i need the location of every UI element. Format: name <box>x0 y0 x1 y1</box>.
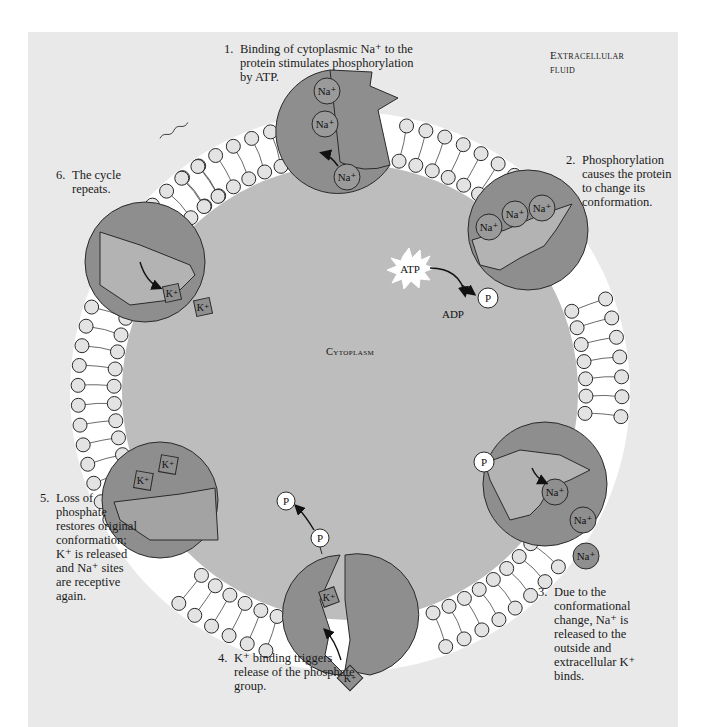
step-2-caption: 2. Phosphorylation causes the protein to… <box>566 153 676 209</box>
sodium-ion: Na⁺ <box>338 171 357 183</box>
potassium-ion: K⁺ <box>137 475 150 486</box>
step-6-caption: 6. The cycle repeats. <box>56 168 136 196</box>
pump-protein-step1: Na⁺ Na⁺ Na⁺ <box>276 70 398 194</box>
sodium-ion: Na⁺ <box>316 118 335 130</box>
sodium-ion: Na⁺ <box>577 550 596 562</box>
sodium-ion: Na⁺ <box>546 486 565 498</box>
potassium-ion: K⁺ <box>323 592 336 603</box>
cytoplasm-label: Cytoplasm <box>326 346 375 357</box>
sodium-ion: Na⁺ <box>574 514 593 526</box>
step-5-caption: 5. Loss of phosphate restores original c… <box>40 491 140 603</box>
step-4-caption: 4. K⁺ binding triggers release of the ph… <box>218 651 368 693</box>
sodium-ion: Na⁺ <box>506 208 525 220</box>
sodium-ion: Na⁺ <box>480 221 499 233</box>
step-3-caption: 3. Due to the conformational change, Na⁺… <box>538 585 648 683</box>
atp-label: ATP <box>400 263 420 275</box>
potassium-ion: K⁺ <box>166 288 179 299</box>
phosphate-group: P <box>317 532 323 544</box>
potassium-ion: K⁺ <box>162 459 175 470</box>
adp-label: ADP <box>442 308 464 320</box>
sodium-ion: Na⁺ <box>318 85 337 97</box>
lipid-bilayer-segments <box>159 121 188 140</box>
phosphate-group: P <box>485 292 491 304</box>
phosphate-group: P <box>481 456 487 468</box>
phosphate-group: P <box>283 495 289 507</box>
step-1-caption: 1. Binding of cytoplasmic Na⁺ to the pro… <box>224 42 424 84</box>
potassium-ion: K⁺ <box>197 302 210 313</box>
extracellular-fluid-label: Extracellular fluid <box>550 48 670 76</box>
sodium-ion: Na⁺ <box>533 202 552 214</box>
